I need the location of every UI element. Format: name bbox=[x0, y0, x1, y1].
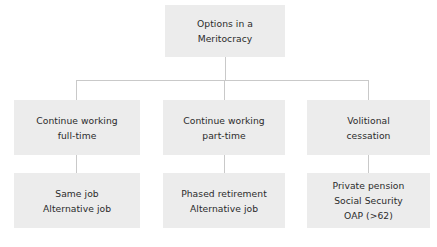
node-cessation-detail-line-3: OAP (>62) bbox=[344, 208, 393, 223]
node-cessation-detail-line-2: Social Security bbox=[334, 193, 403, 208]
node-full-time-details: Same job Alternative job bbox=[14, 173, 140, 228]
node-full-time-detail-line-2: Alternative job bbox=[43, 201, 111, 216]
connector-root-stem bbox=[225, 57, 226, 80]
node-cessation-details: Private pension Social Security OAP (>62… bbox=[307, 173, 430, 228]
connector-drop-full-time bbox=[76, 80, 77, 100]
connector-horizontal-bus bbox=[76, 80, 369, 81]
node-full-time-line-1: Continue working bbox=[36, 113, 117, 128]
node-full-time-detail-line-1: Same job bbox=[55, 186, 98, 201]
node-continue-working-part-time: Continue working part-time bbox=[163, 100, 285, 155]
node-cessation-line-1: Volitional bbox=[347, 113, 390, 128]
node-part-time-line-2: part-time bbox=[202, 128, 245, 143]
node-part-time-detail-line-1: Phased retirement bbox=[181, 186, 267, 201]
node-continue-working-full-time: Continue working full-time bbox=[14, 100, 140, 155]
node-full-time-line-2: full-time bbox=[58, 128, 97, 143]
meritocracy-options-diagram: Options in a Meritocracy Continue workin… bbox=[0, 0, 437, 247]
node-part-time-line-1: Continue working bbox=[183, 113, 264, 128]
connector-drop-part-time bbox=[224, 80, 225, 100]
node-cessation-detail-line-1: Private pension bbox=[333, 178, 405, 193]
node-cessation-line-2: cessation bbox=[347, 128, 391, 143]
node-root-options-in-a-meritocracy: Options in a Meritocracy bbox=[165, 5, 285, 57]
node-volitional-cessation: Volitional cessation bbox=[307, 100, 430, 155]
connector-link-part-time-detail bbox=[224, 155, 225, 173]
node-root-line-2: Meritocracy bbox=[198, 31, 253, 46]
node-part-time-details: Phased retirement Alternative job bbox=[163, 173, 285, 228]
node-part-time-detail-line-2: Alternative job bbox=[190, 201, 258, 216]
node-root-line-1: Options in a bbox=[197, 16, 253, 31]
connector-drop-cessation bbox=[368, 80, 369, 100]
connector-link-full-time-detail bbox=[76, 155, 77, 173]
connector-link-cessation-detail bbox=[368, 155, 369, 173]
